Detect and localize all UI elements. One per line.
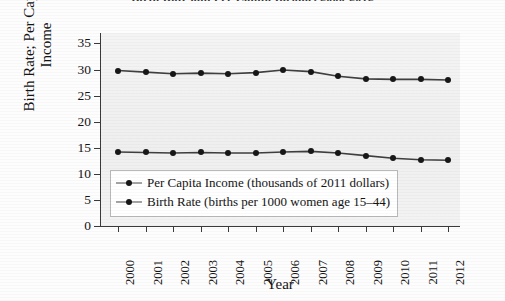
data-point xyxy=(225,71,231,77)
data-point xyxy=(170,150,176,156)
legend-label: Per Capita Income (thousands of 2011 dol… xyxy=(147,174,389,193)
data-point xyxy=(280,67,286,73)
x-axis-tick xyxy=(256,226,257,232)
x-axis-tick xyxy=(448,226,449,232)
y-axis-tick-label: 20 xyxy=(61,114,91,130)
x-axis-tick xyxy=(311,226,312,232)
y-axis-tick xyxy=(94,96,101,97)
legend-item-per-capita-income: Per Capita Income (thousands of 2011 dol… xyxy=(116,174,390,193)
x-axis-tick xyxy=(228,226,229,232)
y-axis-tick xyxy=(94,148,101,149)
line-marker-icon xyxy=(116,197,142,207)
data-point xyxy=(115,68,121,74)
chart-legend: Per Capita Income (thousands of 2011 dol… xyxy=(110,170,398,217)
x-axis-tick xyxy=(201,226,202,232)
legend-label: Birth Rate (births per 1000 women age 15… xyxy=(147,193,390,212)
data-point xyxy=(115,149,121,155)
chart-figure: Birth Rate and Per Capita Income, 2000-2… xyxy=(0,0,505,301)
x-axis-tick xyxy=(283,226,284,232)
y-axis-tick-label: 35 xyxy=(61,35,91,51)
series-lines xyxy=(101,33,401,183)
data-point xyxy=(253,150,259,156)
y-axis-tick xyxy=(94,200,101,201)
data-point xyxy=(198,70,204,76)
y-axis-tick-label: 25 xyxy=(61,88,91,104)
x-axis-tick xyxy=(393,226,394,232)
y-axis-tick xyxy=(94,122,101,123)
data-point xyxy=(445,77,451,83)
x-axis-title: Year xyxy=(100,276,460,293)
data-point xyxy=(198,149,204,155)
data-point xyxy=(445,157,451,163)
y-axis-title: Birth Rate; Per Capita Income xyxy=(20,0,56,145)
y-axis-tick-label: 10 xyxy=(61,166,91,182)
line-marker-icon xyxy=(116,178,142,188)
data-point xyxy=(418,157,424,163)
data-point xyxy=(170,71,176,77)
data-point xyxy=(308,69,314,75)
x-axis-tick xyxy=(338,226,339,232)
data-point xyxy=(143,149,149,155)
y-axis-title-line1: Birth Rate; Per Capita xyxy=(21,0,38,111)
y-axis-tick-label: 15 xyxy=(61,140,91,156)
x-axis-tick xyxy=(173,226,174,232)
data-point xyxy=(335,73,341,79)
y-axis-tick xyxy=(94,43,101,44)
y-axis-title-line2: Income xyxy=(38,0,55,111)
data-point xyxy=(390,76,396,82)
x-axis-tick xyxy=(421,226,422,232)
data-point xyxy=(143,69,149,75)
data-point xyxy=(335,150,341,156)
data-point xyxy=(363,76,369,82)
y-axis-tick xyxy=(94,70,101,71)
y-axis-tick xyxy=(94,226,101,227)
data-point xyxy=(418,76,424,82)
y-axis-tick-label: 30 xyxy=(61,62,91,78)
data-point xyxy=(390,155,396,161)
legend-item-birth-rate: Birth Rate (births per 1000 women age 15… xyxy=(116,193,390,212)
chart-title: Birth Rate and Per Capita Income, 2000-2… xyxy=(0,0,505,1)
y-axis-tick-label: 5 xyxy=(61,192,91,208)
data-point xyxy=(225,150,231,156)
y-axis-tick-label: 0 xyxy=(61,218,91,234)
x-axis-tick xyxy=(118,226,119,232)
x-axis-tick xyxy=(146,226,147,232)
data-point xyxy=(308,148,314,154)
data-point xyxy=(280,149,286,155)
data-point xyxy=(363,153,369,159)
y-axis-tick xyxy=(94,174,101,175)
data-point xyxy=(253,70,259,76)
x-axis-tick xyxy=(366,226,367,232)
